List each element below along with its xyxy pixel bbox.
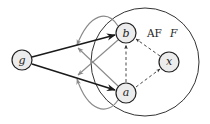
- framework-label-name: F: [169, 27, 178, 39]
- gray-edge-b-to-gb: [77, 16, 118, 45]
- node-b: b: [116, 23, 136, 43]
- node-x-label: x: [166, 55, 173, 68]
- node-g: g: [12, 50, 32, 70]
- argumentation-diagram: g b a x AF F: [0, 0, 210, 124]
- framework-boundary: [91, 8, 199, 116]
- node-b-label: b: [122, 27, 129, 40]
- framework-label-prefix: AF: [146, 27, 162, 39]
- node-a: a: [116, 83, 136, 103]
- framework-label: AF F: [146, 23, 178, 40]
- node-g-label: g: [18, 54, 25, 67]
- gray-edge-b-to-ga: [78, 40, 118, 75]
- edge-g-to-a: [32, 64, 115, 90]
- node-x: x: [159, 52, 179, 72]
- node-a-label: a: [123, 86, 130, 99]
- edge-x-to-b: [136, 39, 160, 56]
- edge-a-to-x: [136, 69, 160, 87]
